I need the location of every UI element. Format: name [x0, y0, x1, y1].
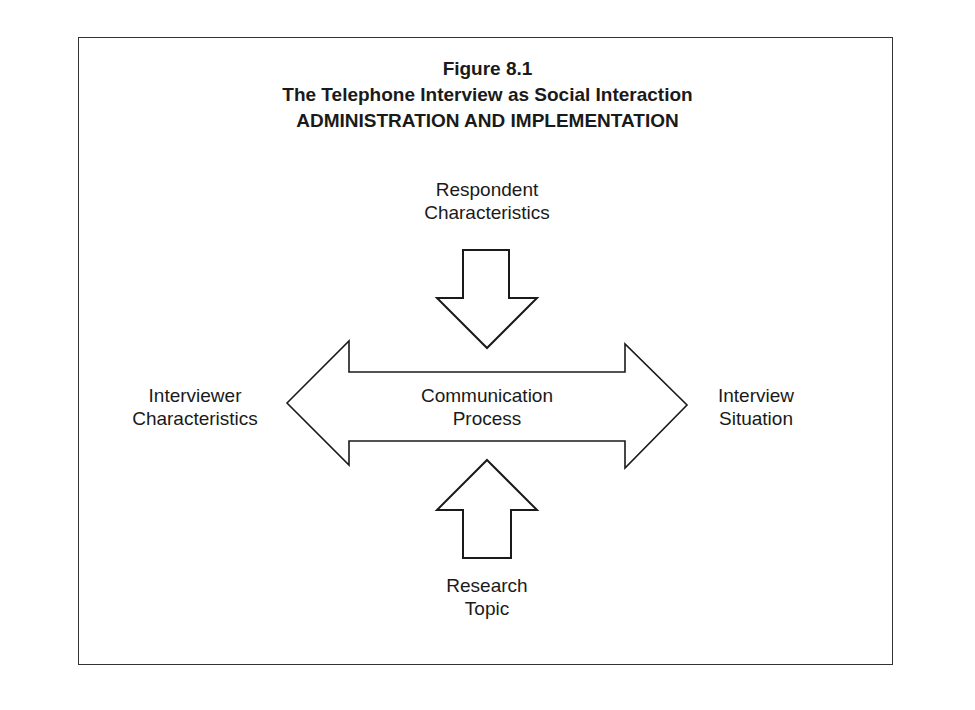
node-communication-process: Communication Process — [387, 384, 587, 430]
label-line: Characteristics — [95, 407, 295, 430]
node-interviewer-characteristics: Interviewer Characteristics — [95, 384, 295, 430]
label-line: Interviewer — [95, 384, 295, 407]
node-interview-situation: Interview Situation — [656, 384, 856, 430]
label-line: Situation — [656, 407, 856, 430]
label-line: Topic — [387, 597, 587, 620]
label-line: Interview — [656, 384, 856, 407]
up-arrow-icon — [437, 460, 537, 558]
down-arrow-icon — [437, 250, 537, 348]
label-line: Communication — [387, 384, 587, 407]
node-respondent-characteristics: Respondent Characteristics — [387, 178, 587, 224]
label-line: Process — [387, 407, 587, 430]
node-research-topic: Research Topic — [387, 574, 587, 620]
label-line: Respondent — [387, 178, 587, 201]
label-line: Characteristics — [387, 201, 587, 224]
label-line: Research — [387, 574, 587, 597]
